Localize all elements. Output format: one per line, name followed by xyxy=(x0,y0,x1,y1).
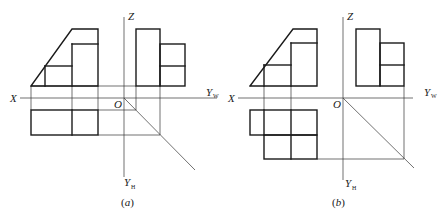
yh-subscript-a: H xyxy=(131,184,136,190)
side-view-b xyxy=(356,29,404,86)
top-view-a xyxy=(31,110,98,135)
side-view-a xyxy=(136,29,185,86)
front-view-b xyxy=(250,29,317,86)
caption-b: (b) xyxy=(332,196,345,209)
yh-subscript-b: H xyxy=(352,185,357,191)
top-view-b xyxy=(250,110,317,159)
axes-a xyxy=(20,17,217,177)
projection-lines-b xyxy=(264,86,404,159)
diagonal-45-a xyxy=(124,98,195,170)
diagonal-45-b xyxy=(343,98,414,168)
x-label-b: X xyxy=(227,92,236,104)
panel-b: Z X O Y W Y H (b) xyxy=(227,10,437,209)
x-label-a: X xyxy=(9,92,18,104)
yw-subscript-b: W xyxy=(431,93,437,99)
origin-label-b: O xyxy=(333,98,341,110)
front-view-a xyxy=(31,29,98,86)
three-view-drawing: Z X O Y W Y H (a) xyxy=(0,0,446,220)
caption-a: (a) xyxy=(121,196,134,209)
yw-subscript-a: W xyxy=(213,93,219,99)
origin-label-a: O xyxy=(114,98,122,110)
z-label-b: Z xyxy=(347,10,354,22)
z-label-a: Z xyxy=(128,10,135,22)
panel-a: Z X O Y W Y H (a) xyxy=(9,10,219,209)
